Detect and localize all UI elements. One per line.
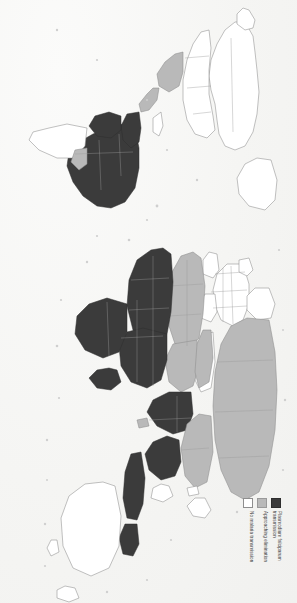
region-southeast-asia bbox=[145, 436, 181, 480]
region-europe bbox=[199, 252, 275, 326]
region-new-zealand bbox=[57, 586, 79, 602]
region-indonesia bbox=[123, 452, 145, 520]
map-legend: Plasmodium falciparum transmission Appro… bbox=[240, 498, 282, 584]
region-scandinavia bbox=[247, 288, 275, 320]
region-mexico bbox=[157, 52, 183, 92]
region-korea bbox=[187, 486, 199, 496]
region-caribbean bbox=[153, 112, 163, 136]
legend-label-pf-transmission: Plasmodium falciparum transmission bbox=[271, 511, 282, 583]
region-sri-lanka bbox=[137, 418, 149, 428]
region-british-isles bbox=[239, 258, 253, 276]
region-russia bbox=[213, 318, 277, 500]
region-australia bbox=[61, 482, 121, 576]
region-north-africa bbox=[167, 252, 205, 348]
swatch-pf-transmission bbox=[271, 498, 281, 508]
region-central-america bbox=[139, 88, 159, 112]
region-southern-africa bbox=[75, 298, 127, 358]
figure-page: Plasmodium falciparum transmission Appro… bbox=[0, 0, 297, 603]
legend-item-approaching-elimination: Approaching elimination bbox=[257, 498, 268, 584]
region-middle-east bbox=[165, 340, 199, 392]
legend-item-pf-transmission: Plasmodium falciparum transmission bbox=[271, 498, 282, 584]
legend-item-no-transmission: No malaria transmission bbox=[243, 498, 254, 584]
region-greenland bbox=[237, 158, 277, 210]
region-tasmania bbox=[47, 540, 59, 556]
region-sub-saharan-africa bbox=[75, 248, 173, 390]
map-legend-rotor: Plasmodium falciparum transmission Appro… bbox=[196, 498, 282, 584]
region-south-america bbox=[29, 112, 141, 208]
region-iberia bbox=[203, 252, 219, 278]
swatch-no-transmission bbox=[243, 498, 253, 508]
region-philippines bbox=[151, 484, 173, 502]
legend-label-no-transmission: No malaria transmission bbox=[249, 511, 254, 562]
swatch-approaching-elimination bbox=[257, 498, 267, 508]
attribution-rotor: Created with mapchart.net bbox=[240, 0, 297, 80]
region-papua-new-guinea bbox=[119, 524, 139, 556]
legend-label-approaching-elimination: Approaching elimination bbox=[263, 511, 268, 562]
region-oceania bbox=[47, 482, 121, 602]
region-madagascar bbox=[89, 368, 121, 390]
